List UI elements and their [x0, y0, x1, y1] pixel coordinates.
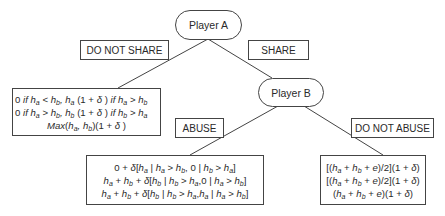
player-b-label: Player B — [271, 87, 311, 99]
do-not-share-payoff-box: 0 if ha < hb, ha (1 + δ ) if ha > hb 0 i… — [12, 88, 161, 136]
abuse-text: ABUSE — [183, 123, 217, 134]
do-not-share-label: DO NOT SHARE — [80, 40, 169, 60]
payoff-line: 0 if ha > hb, hb (1 + δ ) if hb > ha — [15, 106, 158, 119]
player-a-node: Player A — [175, 10, 242, 40]
payoff-line: 0 + δ[ha | ha > hb, 0 | hb > ha] — [89, 161, 261, 174]
player-a-label: Player A — [189, 19, 228, 31]
share-label: SHARE — [248, 40, 309, 60]
player-b-node: Player B — [258, 78, 324, 107]
do-not-abuse-payoff-box: [(ha + hb + e)/2](1 + δ) [(ha + hb + e)/… — [320, 155, 426, 205]
payoff-line: [(ha + hb + e)/2](1 + δ) — [323, 161, 423, 174]
abuse-payoff-box: 0 + δ[ha | ha > hb, 0 | hb > ha] ha + hb… — [86, 155, 264, 205]
do-not-share-text: DO NOT SHARE — [87, 45, 163, 56]
payoff-line: ha + hb + δ[hb | hb > ha,0 | ha > hb] — [89, 174, 261, 187]
payoff-line: (ha + hb + e)(1 + δ) — [323, 187, 423, 200]
payoff-line: Max(ha, hb)(1 + δ ) — [15, 119, 158, 132]
abuse-label: ABUSE — [175, 118, 224, 138]
do-not-abuse-text: DO NOT ABUSE — [355, 123, 430, 134]
payoff-line: 0 if ha < hb, ha (1 + δ ) if ha > hb — [15, 93, 158, 106]
do-not-abuse-label: DO NOT ABUSE — [351, 118, 434, 138]
payoff-line: ha + hb + δ[hb | hb > ha,ha | ha > hb] — [89, 187, 261, 200]
payoff-line: [(ha + hb + e)/2](1 + δ) — [323, 174, 423, 187]
share-text: SHARE — [261, 45, 295, 56]
